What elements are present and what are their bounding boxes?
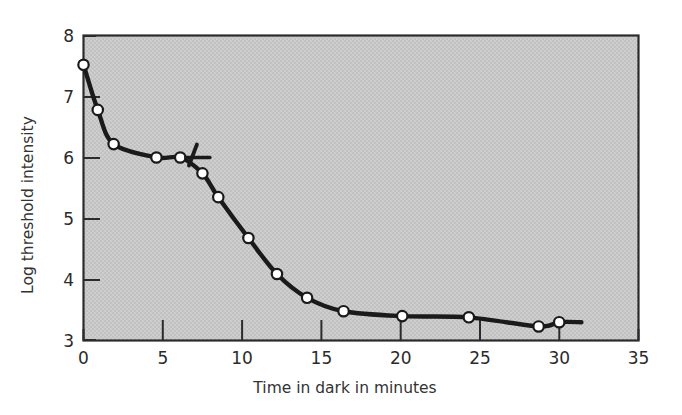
data-point-marker	[243, 233, 253, 243]
x-tick-labels: 0 5 10 15 20 25 30 35	[78, 348, 649, 368]
y-tick-label: 8	[63, 26, 74, 46]
x-tick-label: 10	[231, 348, 253, 368]
chart-canvas: 8 7 6 5 4 3 0 5 10 15 20 25 30 35 Time i…	[0, 0, 682, 415]
data-point-marker	[213, 192, 223, 202]
data-point-marker	[78, 60, 88, 70]
data-point-marker	[464, 312, 474, 322]
x-tick-label: 5	[157, 348, 168, 368]
data-point-marker	[93, 105, 103, 115]
data-point-marker	[151, 152, 161, 162]
data-point-marker	[397, 311, 407, 321]
data-point-marker	[197, 168, 207, 178]
dark-adaptation-chart-figure: 8 7 6 5 4 3 0 5 10 15 20 25 30 35 Time i…	[0, 0, 682, 415]
y-tick-label: 5	[63, 209, 74, 229]
y-tick-labels: 8 7 6 5 4 3	[63, 26, 74, 351]
y-tick-label: 4	[63, 270, 74, 290]
data-point-marker	[533, 321, 543, 331]
data-point-marker	[272, 269, 282, 279]
x-tick-label: 20	[390, 348, 412, 368]
x-tick-label: 0	[78, 348, 89, 368]
x-axis-title: Time in dark in minutes	[252, 379, 436, 397]
y-tick-label: 3	[63, 331, 74, 351]
x-tick-label: 30	[548, 348, 570, 368]
plot-area-background	[84, 36, 639, 341]
x-tick-label: 35	[628, 348, 650, 368]
x-tick-label: 15	[311, 348, 333, 368]
data-point-marker	[302, 293, 312, 303]
y-axis-title: Log threshold intensity	[19, 116, 37, 294]
data-point-marker	[108, 139, 118, 149]
data-point-marker	[338, 306, 348, 316]
data-point-marker	[175, 152, 185, 162]
data-point-marker	[554, 317, 564, 327]
y-tick-label: 7	[63, 87, 74, 107]
x-tick-label: 25	[469, 348, 491, 368]
y-tick-label: 6	[63, 148, 74, 168]
